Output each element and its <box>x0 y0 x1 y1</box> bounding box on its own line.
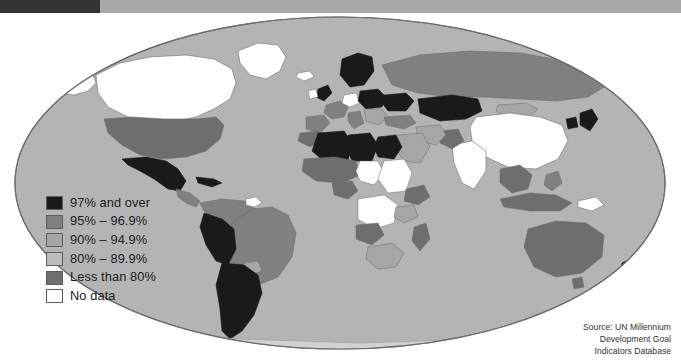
legend-item: 97% and over <box>46 194 156 213</box>
legend-item: 90% – 94.9% <box>46 231 156 250</box>
legend-swatch-95-to-96-9 <box>46 215 63 229</box>
legend-item: 95% – 96.9% <box>46 213 156 232</box>
map-legend: 97% and over 95% – 96.9% 90% – 94.9% 80%… <box>46 194 156 306</box>
legend-label-no-data: No data <box>70 290 116 303</box>
legend-swatch-97-and-over <box>46 196 63 210</box>
legend-label-97-and-over: 97% and over <box>70 197 150 210</box>
source-attribution: Source: UN Millennium Development Goal I… <box>583 322 671 358</box>
legend-swatch-no-data <box>46 289 63 303</box>
legend-item: Less than 80% <box>46 268 156 287</box>
legend-label-95-to-96-9: 95% – 96.9% <box>70 215 147 228</box>
source-line-1: Source: UN Millennium <box>583 322 671 334</box>
source-line-2: Development Goal <box>583 334 671 346</box>
legend-label-80-to-89-9: 80% – 89.9% <box>70 253 147 266</box>
legend-label-less-than-80: Less than 80% <box>70 271 156 284</box>
legend-item: No data <box>46 287 156 306</box>
world-map-figure: 97% and over 95% – 96.9% 90% – 94.9% 80%… <box>0 13 681 364</box>
legend-label-90-to-94-9: 90% – 94.9% <box>70 234 147 247</box>
legend-swatch-80-to-89-9 <box>46 252 63 266</box>
legend-item: 80% – 89.9% <box>46 250 156 269</box>
country-ireland <box>308 89 318 99</box>
country-tasmania <box>572 277 584 289</box>
country-korea <box>566 117 578 129</box>
source-line-3: Indicators Database <box>583 346 671 358</box>
world-map-svg <box>0 13 681 364</box>
header-dark-bar <box>0 0 100 13</box>
header-bars <box>0 0 681 13</box>
legend-swatch-less-than-80 <box>46 271 63 285</box>
legend-swatch-90-to-94-9 <box>46 233 63 247</box>
header-gray-bar <box>100 0 681 13</box>
